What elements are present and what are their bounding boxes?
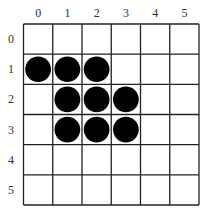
board-cell (82, 175, 111, 205)
board-cell (141, 175, 170, 205)
board-cell (141, 145, 170, 175)
black-stone (113, 117, 139, 143)
row-label: 5 (8, 183, 14, 197)
board-cell (24, 24, 53, 54)
board-cell (53, 24, 82, 54)
grid-board: 012345 012345 (0, 0, 215, 219)
column-label: 4 (152, 6, 158, 20)
column-label: 5 (181, 6, 187, 20)
board-cell (111, 54, 140, 84)
board-cell (170, 145, 199, 175)
black-stone (84, 56, 110, 82)
board-cell (170, 115, 199, 145)
board-cell (24, 175, 53, 205)
black-stone (113, 87, 139, 113)
column-label: 3 (123, 6, 129, 20)
board-cell (24, 84, 53, 114)
column-label: 2 (94, 6, 100, 20)
black-stone (55, 117, 81, 143)
row-label: 1 (8, 62, 14, 76)
board-cell (111, 175, 140, 205)
board-cell (82, 145, 111, 175)
row-label: 2 (8, 92, 14, 106)
board-cell (170, 54, 199, 84)
black-stone (84, 117, 110, 143)
board-cell (82, 24, 111, 54)
black-stone (25, 56, 51, 82)
row-label: 3 (8, 123, 14, 137)
board-cell (170, 175, 199, 205)
row-label: 4 (8, 153, 14, 167)
board-cell (24, 115, 53, 145)
board-cell (53, 175, 82, 205)
board-cell (170, 24, 199, 54)
black-stone (55, 87, 81, 113)
row-label: 0 (8, 32, 14, 46)
column-label: 1 (64, 6, 70, 20)
board-cell (111, 145, 140, 175)
board-cell (53, 145, 82, 175)
board-cell (141, 84, 170, 114)
board-cell (141, 24, 170, 54)
black-stone (84, 87, 110, 113)
column-label: 0 (35, 6, 41, 20)
board-cell (141, 54, 170, 84)
board-cell (111, 24, 140, 54)
board-cell (170, 84, 199, 114)
board-cell (24, 145, 53, 175)
black-stone (55, 56, 81, 82)
board-cell (141, 115, 170, 145)
